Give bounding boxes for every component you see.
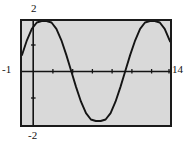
y-max-label: 2 — [31, 3, 37, 14]
x-max-label: 14 — [172, 64, 183, 75]
plot-graphics — [0, 0, 187, 148]
x-min-label: -1 — [2, 64, 11, 75]
plot-border — [21, 20, 171, 126]
y-min-label: -2 — [28, 130, 37, 141]
chart-container: 2 -2 -1 14 — [0, 0, 187, 148]
